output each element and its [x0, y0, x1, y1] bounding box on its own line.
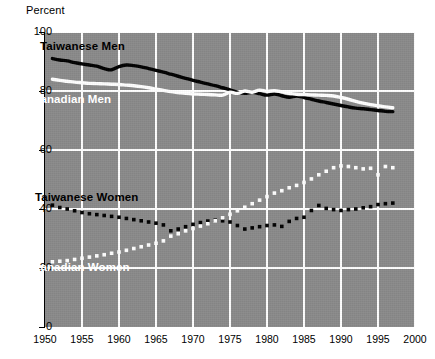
- plot-area: [45, 32, 415, 327]
- x-tick-label: 2000: [392, 334, 435, 345]
- y-tick-mark: [39, 32, 45, 33]
- series-label-taiwanese-men: Taiwanese Men: [40, 40, 125, 52]
- series-label-taiwanese-women: Taiwanese Women: [35, 191, 138, 203]
- y-tick-mark: [39, 150, 45, 151]
- gridlines: [45, 32, 415, 327]
- y-tick-label: 0: [16, 321, 52, 332]
- y-tick-mark: [39, 327, 45, 328]
- y-tick-mark: [39, 209, 45, 210]
- y-tick-label: 100: [16, 26, 52, 37]
- chart-canvas: [45, 32, 415, 327]
- series-label-canadian-men: Canadian Men: [32, 93, 111, 105]
- y-tick-mark: [39, 91, 45, 92]
- series-label-canadian-women: Canadian Women: [32, 261, 130, 273]
- y-axis-title: Percent: [26, 4, 65, 16]
- y-tick-label: 60: [16, 144, 52, 155]
- series-canadian-women: [51, 164, 395, 263]
- y-tick-label: 40: [16, 203, 52, 214]
- chart-figure: Percent 020406080100 1950195519601965197…: [0, 0, 435, 359]
